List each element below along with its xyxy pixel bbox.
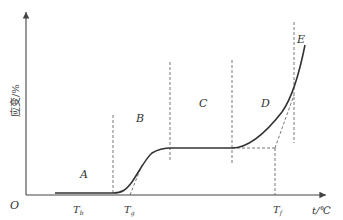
region-label-a: A bbox=[79, 168, 88, 181]
strain-curve bbox=[55, 45, 305, 193]
temp-mark-tb: Tb bbox=[73, 204, 84, 216]
region-label-c: C bbox=[199, 97, 208, 110]
region-label-e: E bbox=[296, 33, 305, 46]
region-label-b: B bbox=[135, 112, 144, 125]
y-axis-label: 应变/% bbox=[9, 84, 21, 117]
origin-label: O bbox=[10, 199, 19, 212]
x-axis-label: t/℃ bbox=[312, 205, 331, 216]
temp-mark-tf: Tf bbox=[273, 204, 284, 217]
thermo-mechanical-curve-diagram: A B C D E O t/℃ 应变/% Tb Tg Tf bbox=[0, 0, 343, 220]
region-label-d: D bbox=[260, 97, 270, 110]
tf-tangent bbox=[275, 95, 294, 148]
temp-mark-tg: Tg bbox=[124, 204, 135, 217]
